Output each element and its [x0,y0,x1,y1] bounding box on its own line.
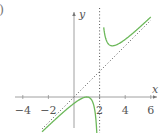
axis-labels: −4−2246xy [15,8,159,117]
x-axis-label: x [152,83,159,96]
x-tick-label: 2 [96,104,103,117]
x-tick-label: −2 [40,104,56,117]
x-tick-label: 4 [122,104,129,117]
axes [15,12,157,128]
curve-right-branch [104,17,151,46]
y-axis-label: y [78,8,86,21]
function-plot: −4−2246xy [0,0,167,133]
x-tick-label: 6 [147,104,154,117]
x-tick-label: −4 [15,104,31,117]
